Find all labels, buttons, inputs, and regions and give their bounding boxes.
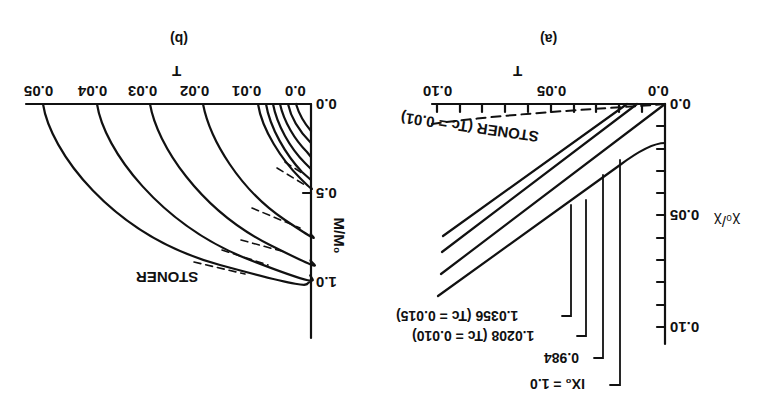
panel-a-title: (a): [540, 32, 557, 46]
panel-a-label-1.0208: 1.0208 (Tc = 0.010): [412, 329, 534, 343]
panel-b-curves: [43, 104, 315, 285]
panel-a-xtick-0: 0.0: [648, 84, 669, 99]
panel-b-xtick-0: 0.0: [285, 84, 306, 99]
panel-b-xtick-2: 0.02: [180, 84, 209, 99]
panel-a-ytick-1: 0.05: [670, 208, 699, 223]
panel-b-stoner-label: STONER: [136, 270, 198, 285]
panel-a-xtick-2: 0.10: [423, 84, 452, 99]
panel-a-ylabel: χ₀/χ: [714, 214, 740, 229]
panel-a-ytick-0: 0.0: [670, 97, 691, 112]
panel-a-xtick-1: 0.05: [537, 84, 566, 99]
panel-b-xtick-5: 0.05: [24, 84, 53, 99]
panel-b-stoner-dashed: [194, 162, 305, 274]
panel-b-ytick-1: 0.5: [316, 186, 337, 201]
panel-b-ytick-0: 0.0: [316, 97, 337, 112]
panel-b-xtick-1: 0.01: [232, 84, 261, 99]
panel-a-label-0.984: 0.984: [544, 351, 579, 365]
panel-b-title: (b): [170, 32, 188, 46]
curve-1.0: [438, 143, 665, 296]
panel-b-ytick-2: 1.0: [316, 275, 337, 290]
panel-a-xlabel: T: [513, 64, 522, 79]
panel-a-label-1.0356: 1.0356 (Tc = 0.015): [396, 309, 518, 323]
panel-a-ytick-2: 0.10: [670, 320, 699, 335]
panel-b-axes: [26, 104, 311, 338]
panel-b-xlabel: T: [172, 64, 181, 79]
panel-b-xtick-3: 0.03: [128, 84, 157, 99]
panel-a-label-1.0: IX₀ = 1.0: [530, 377, 585, 391]
panel-b-xtick-4: 0.04: [78, 84, 107, 99]
figure-canvas: [0, 0, 770, 418]
panel-b-ylabel: M/M₀: [332, 218, 347, 254]
